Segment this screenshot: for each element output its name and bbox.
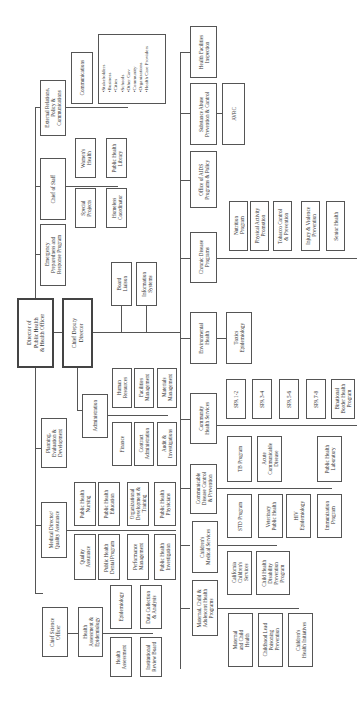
connector	[66, 107, 128, 108]
spa12-node[interactable]: SPA 1-2	[226, 379, 246, 419]
connector	[66, 530, 176, 531]
board-liaison-node[interactable]: Board Liaison	[111, 262, 132, 306]
stakeholders-list: Stakeholders Business Cities Schools Oth…	[98, 34, 166, 104]
audit-node[interactable]: Audit & Investigations	[157, 422, 177, 466]
womens-health-node[interactable]: Women's Health	[75, 138, 96, 178]
connector	[180, 258, 190, 259]
health-assessment-node[interactable]: Health Assessment	[110, 637, 132, 677]
ccs-node[interactable]: California Children's Services	[227, 551, 252, 595]
chronic-disease-node[interactable]: Chronic Disease Programs	[190, 232, 217, 283]
medical-director-node[interactable]: Medical Director/ Quality Assurance	[41, 502, 67, 558]
senior-health-node[interactable]: Senior Health	[326, 201, 345, 251]
connector	[180, 52, 190, 53]
external-relations-node[interactable]: External Relations, Policy & Communicati…	[40, 80, 66, 136]
chief-science-node[interactable]: Chief Science Officer	[42, 607, 68, 657]
connector	[180, 488, 190, 489]
communicable-node[interactable]: Communicable Disease Control & Preventio…	[190, 464, 217, 514]
connector	[217, 545, 277, 546]
std-node[interactable]: STD Program	[227, 494, 252, 538]
connector	[180, 113, 190, 114]
connector	[103, 633, 153, 634]
info-systems-node[interactable]: Information Systems	[136, 262, 157, 306]
connector	[35, 593, 43, 594]
connector	[180, 545, 190, 546]
health-facilities-node[interactable]: Health Facilities Inspection	[190, 26, 217, 78]
finance-node[interactable]: Finance	[112, 422, 132, 466]
ph-dental-node[interactable]: Public Health Dental Program	[98, 534, 120, 580]
health-assessment-epi-node[interactable]: Health Assessment & Epidemiology	[78, 607, 103, 657]
mcah-node[interactable]: Maternal, Child & Adolescent Health Prog…	[192, 580, 218, 636]
facilities-node[interactable]: Facilities Management	[134, 368, 154, 408]
connector	[217, 488, 332, 489]
ph-investigation-node[interactable]: Public Health Investigation	[154, 534, 176, 580]
connector	[180, 419, 190, 420]
substance-abuse-node[interactable]: Substance Abuse Prevention & Control	[190, 83, 217, 145]
right-spine	[180, 52, 181, 669]
ph-library-node[interactable]: Public Health Library	[106, 138, 127, 178]
chief-deputy-node[interactable]: Chief Deputy Director	[62, 298, 93, 368]
org-dev-node[interactable]: Organizational Development & Training	[127, 482, 149, 526]
nutrition-node[interactable]: Nutrition Program	[229, 201, 248, 251]
binational-node[interactable]: Binational Border Health Program	[331, 379, 355, 419]
maternal-child-node[interactable]: Maternal and Child Health	[228, 613, 253, 667]
connector	[66, 186, 118, 187]
planning-node[interactable]: Planning, Evaluation & Development	[41, 418, 67, 468]
data-collection-node[interactable]: Data Collection & Analysis	[140, 585, 162, 629]
ph-lab-node[interactable]: Public Health Laboratory	[317, 436, 342, 482]
connector	[92, 332, 180, 333]
epidemiology-node[interactable]: Epidemiology	[110, 585, 132, 629]
ph-nursing-node[interactable]: Public Health Nursing	[74, 482, 96, 526]
communications-node[interactable]: Communications	[71, 52, 93, 104]
connector	[180, 338, 190, 339]
hiv-node[interactable]: HIV Epidemiology	[286, 494, 311, 538]
connector	[121, 304, 122, 332]
org-chart: Director of Public Health & Health Offic…	[0, 0, 358, 723]
human-resources-node[interactable]: Human Resources	[112, 368, 132, 408]
performance-node[interactable]: Performance Management	[127, 534, 149, 580]
aids-node[interactable]: Office of AIDS Programs & Policy	[190, 151, 217, 208]
connector	[146, 304, 147, 332]
tobacco-node[interactable]: Tobacco Control & Prevention	[273, 201, 292, 251]
connector	[180, 180, 190, 181]
connector	[217, 258, 357, 259]
avrc-node[interactable]: AVRC	[222, 83, 245, 145]
chdp-node[interactable]: Child Health Disability Prevention Progr…	[256, 551, 290, 595]
materials-node[interactable]: Materials Management	[157, 368, 177, 408]
homeless-node[interactable]: Homeless Coordinator	[106, 188, 127, 228]
quality-assurance-node[interactable]: Quality Assurance	[74, 534, 96, 580]
stakeholders-items: Stakeholders Business Cities Schools Oth…	[99, 44, 153, 94]
irb-node[interactable]: Institutional Review Board	[140, 637, 162, 677]
spa56-node[interactable]: SPA 5-6	[279, 379, 299, 419]
childrens-initiatives-node[interactable]: Children's Health Initiatives	[288, 613, 313, 667]
connector	[108, 415, 168, 416]
connector	[77, 367, 78, 410]
spa34-node[interactable]: SPA 3-4	[252, 379, 272, 419]
special-projects-node[interactable]: Special Projects	[75, 188, 96, 228]
injury-node[interactable]: Injury & Violence Prevention	[301, 201, 320, 251]
toxics-node[interactable]: Toxics Epidemiology	[226, 312, 252, 364]
immunization-node[interactable]: Immunization Program	[317, 494, 342, 538]
ph-education-node[interactable]: Public Health Education	[98, 482, 120, 526]
connector	[217, 608, 299, 609]
chief-of-staff-node[interactable]: Chief of Staff	[40, 158, 66, 220]
connector	[180, 608, 190, 609]
contract-admin-node[interactable]: Contract Administration	[134, 422, 154, 466]
connector	[68, 633, 78, 634]
childrens-medical-node[interactable]: Children's Medical Services	[192, 521, 218, 573]
ph-physicians-node[interactable]: Public Health Physicians	[154, 482, 176, 526]
environmental-node[interactable]: Environmental Health	[190, 312, 217, 364]
director-node[interactable]: Director of Public Health & Health Offic…	[17, 298, 54, 368]
acute-node[interactable]: Acute Communicable Disease	[257, 436, 282, 482]
administration-node[interactable]: Administration	[82, 394, 108, 438]
community-health-node[interactable]: Community Health Services	[190, 393, 217, 444]
physical-activity-node[interactable]: Physical Activity Promotion	[250, 201, 269, 251]
tb-node[interactable]: TB Program	[227, 436, 252, 482]
veterinary-node[interactable]: Veterinary Public Health	[258, 494, 283, 538]
connector	[217, 425, 357, 426]
spa78-node[interactable]: SPA 7-8	[306, 379, 326, 419]
lead-node[interactable]: Childhood Lead Poisoning Prevention	[258, 613, 283, 667]
emergency-node[interactable]: Emergency Preparedness and Response Prog…	[40, 224, 66, 286]
